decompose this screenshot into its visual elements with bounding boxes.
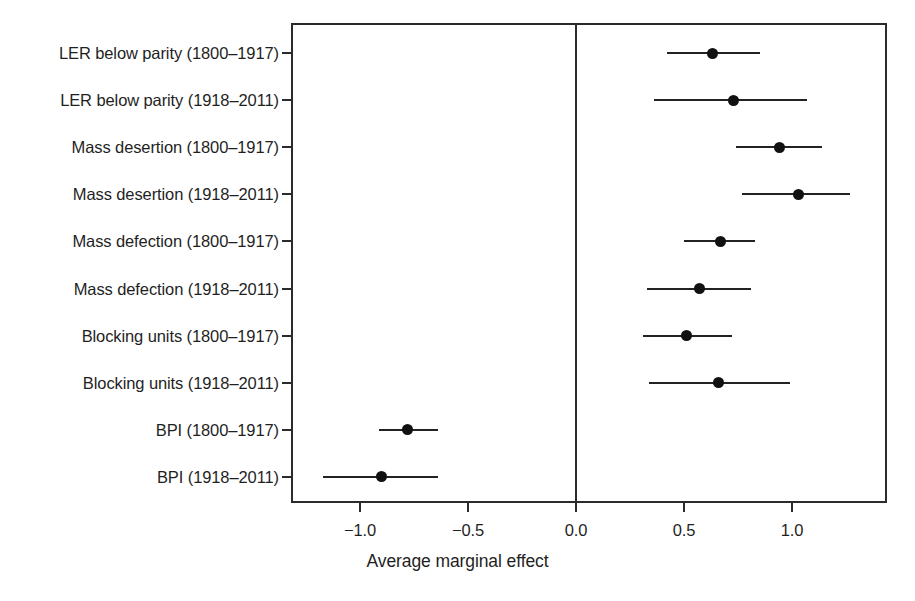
y-axis-category-label: Blocking units (1800–1917) — [82, 328, 279, 345]
point-estimate-marker — [728, 95, 739, 106]
x-axis-tick-label: −1.0 — [344, 522, 376, 539]
x-axis-tick — [791, 503, 793, 512]
y-axis-tick — [282, 382, 291, 384]
y-axis-category-label: Mass desertion (1918–2011) — [73, 186, 279, 203]
x-axis-tick — [467, 503, 469, 512]
y-axis-tick — [282, 476, 291, 478]
y-axis-tick — [282, 52, 291, 54]
y-axis-category-label: BPI (1918–2011) — [157, 469, 279, 486]
point-estimate-marker — [793, 189, 804, 200]
y-axis-tick — [282, 99, 291, 101]
y-axis-category-label: LER below parity (1918–2011) — [60, 92, 279, 109]
forest-plot-figure: LER below parity (1800–1917)LER below pa… — [0, 0, 915, 601]
point-estimate-marker — [774, 142, 785, 153]
plot-frame — [291, 23, 887, 503]
y-axis-category-label: BPI (1800–1917) — [156, 422, 279, 439]
x-axis-title: Average marginal effect — [0, 553, 915, 571]
x-axis-tick — [359, 503, 361, 512]
y-axis-category-label: Mass defection (1800–1917) — [72, 233, 279, 250]
y-axis-tick — [282, 193, 291, 195]
y-axis-category-label: Mass defection (1918–2011) — [74, 281, 279, 298]
x-axis-tick — [575, 503, 577, 512]
y-axis-category-label: Mass desertion (1800–1917) — [72, 139, 279, 156]
point-estimate-marker — [694, 283, 705, 294]
y-axis-category-label: LER below parity (1800–1917) — [59, 45, 279, 62]
y-axis-tick — [282, 429, 291, 431]
y-axis-tick — [282, 146, 291, 148]
point-estimate-marker — [707, 48, 718, 59]
y-axis-tick — [282, 335, 291, 337]
y-axis-tick — [282, 288, 291, 290]
x-axis-tick-label: 0.5 — [673, 522, 696, 539]
zero-reference-line — [575, 23, 577, 503]
y-axis-tick — [282, 240, 291, 242]
y-axis-category-label: Blocking units (1918–2011) — [83, 375, 279, 392]
x-axis-tick-label: 0.0 — [565, 522, 588, 539]
point-estimate-marker — [681, 330, 692, 341]
x-axis-tick-label: −0.5 — [452, 522, 484, 539]
x-axis-tick — [683, 503, 685, 512]
x-axis-tick-label: 1.0 — [781, 522, 804, 539]
